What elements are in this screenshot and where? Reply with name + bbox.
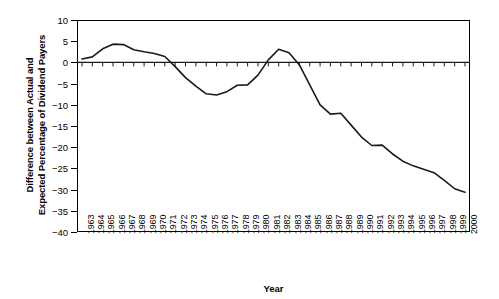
x-tick-label: 1979 xyxy=(251,215,261,234)
x-axis-title: Year xyxy=(77,283,470,294)
x-tick-label: 1994 xyxy=(406,215,416,234)
y-tick-label: −25 xyxy=(52,163,68,174)
x-tick-label: 1998 xyxy=(448,215,458,234)
x-tick-label: 1973 xyxy=(189,215,199,234)
x-tick-label: 2000 xyxy=(469,215,479,234)
y-tick-mark xyxy=(71,232,77,233)
x-tick-label: 1988 xyxy=(344,215,354,234)
y-tick-label: −10 xyxy=(52,99,68,110)
y-tick-label: −5 xyxy=(57,78,68,89)
y-tick-label: 5 xyxy=(63,36,68,47)
x-tick-label: 1997 xyxy=(437,215,447,234)
x-tick-label: 1978 xyxy=(241,215,251,234)
y-tick-label: −35 xyxy=(52,205,68,216)
x-tick-label: 1982 xyxy=(282,215,292,234)
x-tick-label: 1987 xyxy=(334,215,344,234)
x-tick-label: 1991 xyxy=(375,215,385,234)
x-tick-label: 1968 xyxy=(137,215,147,234)
chart-figure: Difference between Actual and Expected P… xyxy=(0,0,499,299)
x-tick-label: 1966 xyxy=(117,215,127,234)
series-layer xyxy=(77,20,470,232)
x-tick-label: 1971 xyxy=(168,215,178,234)
zero-axis-group xyxy=(77,62,470,66)
x-tick-label: 1976 xyxy=(220,215,230,234)
y-tick-label: −15 xyxy=(52,121,68,132)
y-tick-label: −30 xyxy=(52,184,68,195)
x-tick-label: 1996 xyxy=(427,215,437,234)
x-tick-label: 1983 xyxy=(293,215,303,234)
y-tick-label: −40 xyxy=(52,227,68,238)
x-tick-label: 1986 xyxy=(324,215,334,234)
x-tick-label: 1964 xyxy=(96,215,106,234)
x-tick-label: 1981 xyxy=(272,215,282,234)
x-tick-label: 1972 xyxy=(179,215,189,234)
x-tick-label: 1993 xyxy=(396,215,406,234)
x-tick-label: 1977 xyxy=(230,215,240,234)
y-tick-label: 0 xyxy=(63,57,68,68)
x-tick-label: 1980 xyxy=(261,215,271,234)
x-tick-label: 1969 xyxy=(148,215,158,234)
x-tick-label: 1967 xyxy=(127,215,137,234)
data-series-line xyxy=(82,44,465,192)
x-axis-tick-marks xyxy=(82,62,465,66)
x-tick-label: 1970 xyxy=(158,215,168,234)
x-tick-label: 1989 xyxy=(355,215,365,234)
x-tick-label: 1965 xyxy=(106,215,116,234)
x-tick-label: 1975 xyxy=(210,215,220,234)
x-tick-label: 1984 xyxy=(303,215,313,234)
y-axis-title-line-1: Difference between Actual and xyxy=(24,57,37,192)
x-tick-label: 1963 xyxy=(86,215,96,234)
x-tick-label: 1992 xyxy=(386,215,396,234)
x-tick-label: 1974 xyxy=(199,215,209,234)
x-axis-tick-labels: 1963196419651966196719681969197019711972… xyxy=(77,234,470,280)
y-tick-label: 10 xyxy=(57,15,68,26)
x-tick-label: 1999 xyxy=(458,215,468,234)
plot-area xyxy=(77,20,470,232)
y-axis-tick-labels: 1050−5−10−15−20−25−30−35−40 xyxy=(44,20,74,232)
x-tick-label: 1995 xyxy=(417,215,427,234)
y-tick-label: −20 xyxy=(52,142,68,153)
x-tick-label: 1985 xyxy=(313,215,323,234)
x-tick-label: 1990 xyxy=(365,215,375,234)
